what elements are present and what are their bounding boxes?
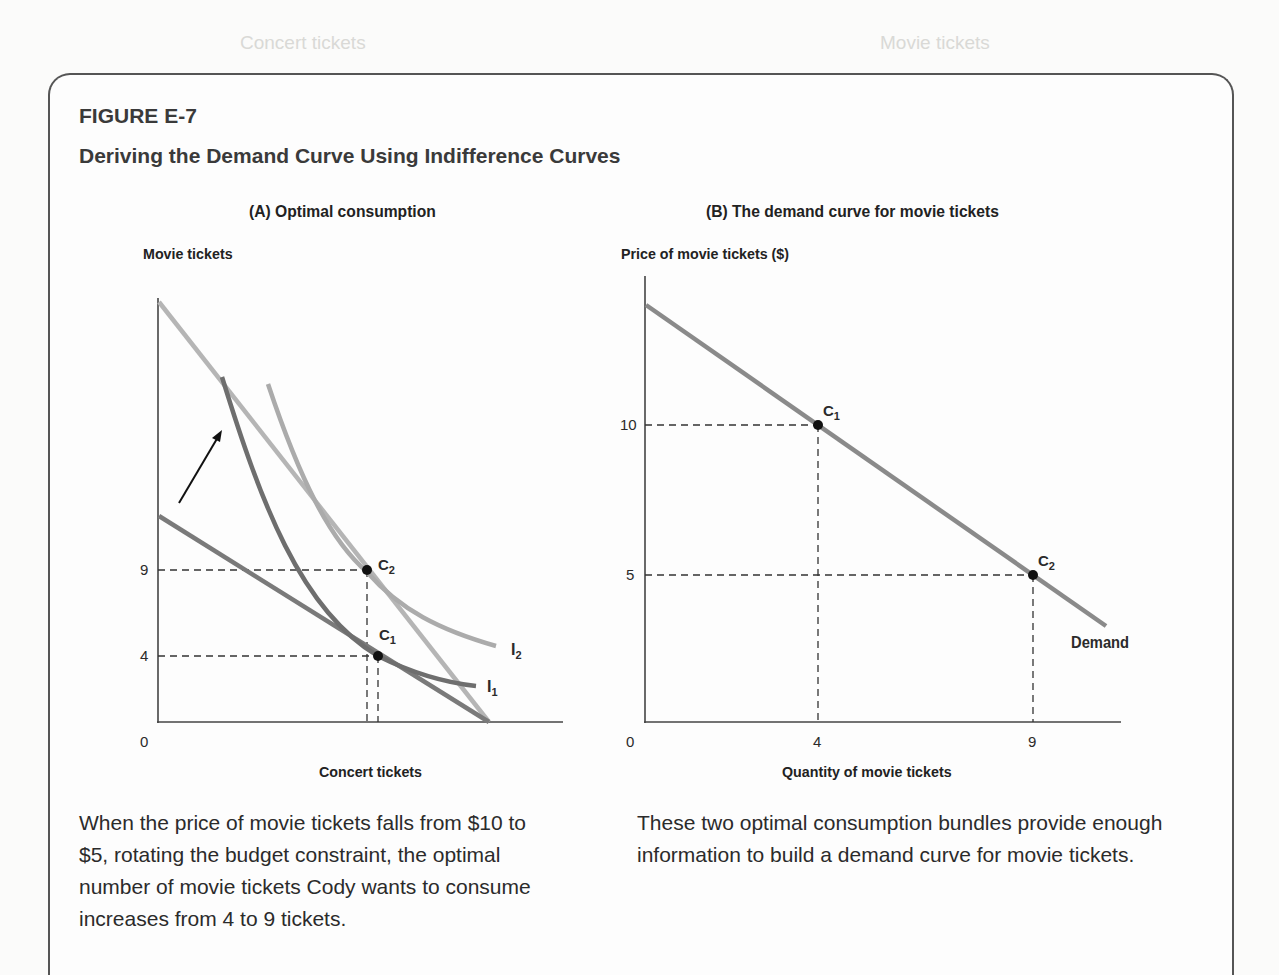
budget-line-new: [159, 302, 489, 722]
indifference-curve-i1: [222, 377, 476, 686]
panel-a-point-c2: [362, 565, 372, 575]
rotation-arrow: [179, 437, 218, 503]
panel-b-caption: These two optimal consumption bundles pr…: [637, 807, 1197, 871]
panel-b-point-c2: [1028, 570, 1038, 580]
panel-a-point-c1: [373, 651, 383, 661]
panel-a-chart: [157, 298, 563, 723]
panel-b-chart: [644, 276, 1121, 723]
panel-a-caption: When the price of movie tickets falls fr…: [79, 807, 559, 935]
arrow-head-icon: [212, 430, 222, 442]
budget-line-original: [159, 516, 489, 722]
panel-b-point-c1: [813, 420, 823, 430]
